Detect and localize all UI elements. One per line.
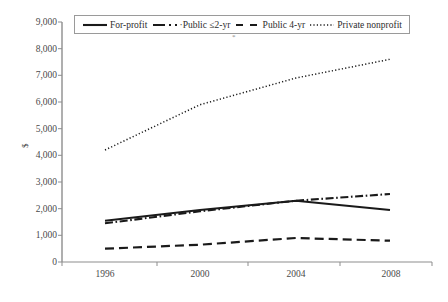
legend-item-public-2yr[interactable]: ·Public ≤2-yr — [152, 20, 231, 30]
chart-container: $ 9,000 8,000 7,000 6,000 5,000 4,000 3,… — [0, 0, 448, 302]
x-axis-ticks — [62, 262, 432, 266]
series-lines — [105, 59, 390, 248]
series-line-private-nonprofit — [105, 59, 390, 150]
legend-item-private-nonprofit[interactable]: Private nonprofit — [309, 20, 402, 30]
series-line-public-2yr — [105, 194, 390, 223]
legend-label: ·Public ≤2-yr — [180, 20, 231, 30]
legend-label: Private nonprofit — [337, 20, 402, 30]
dotted-line-icon — [309, 20, 335, 30]
axes-group — [58, 22, 432, 266]
chart-legend: For-profit ·Public ≤2-yr Public 4-yr Pri… — [74, 15, 410, 34]
legend-item-for-profit[interactable]: For-profit — [82, 20, 147, 30]
solid-line-icon — [82, 20, 108, 30]
dashed-line-icon — [235, 20, 261, 30]
legend-item-public-4yr[interactable]: Public 4-yr — [235, 20, 305, 30]
series-line-for-profit — [105, 201, 390, 221]
asterisk-annotation: * — [232, 34, 236, 41]
dash-dot-line-icon — [152, 20, 178, 30]
plot-area — [0, 0, 448, 302]
series-line-public-4yr — [105, 238, 390, 249]
legend-label: Public 4-yr — [263, 20, 305, 30]
legend-label: For-profit — [110, 20, 147, 30]
